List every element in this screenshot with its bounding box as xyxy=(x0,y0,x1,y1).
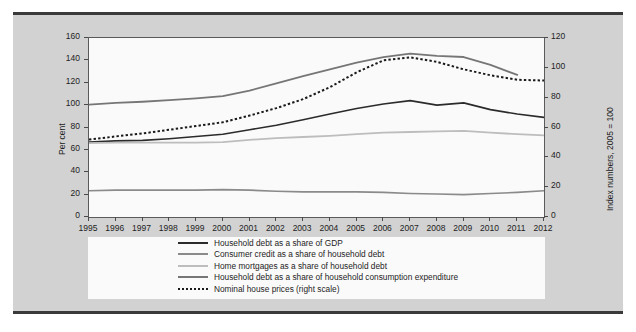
y-tick-label: 20 xyxy=(54,189,80,198)
y-tick-mark xyxy=(84,171,88,172)
x-tick-mark xyxy=(222,217,223,221)
y2-tick-label: 100 xyxy=(551,62,577,71)
figure-frame: Per cent Index numbers, 2005 = 100 02040… xyxy=(13,12,623,314)
legend-item-label: Nominal house prices (right scale) xyxy=(214,284,339,294)
x-tick-mark xyxy=(88,217,89,221)
legend-item[interactable]: Nominal house prices (right scale) xyxy=(88,283,545,295)
x-tick-mark xyxy=(302,217,303,221)
y-tick-label: 40 xyxy=(54,166,80,175)
x-tick-label: 1998 xyxy=(153,223,183,233)
y2-tick-label: 60 xyxy=(551,122,577,131)
x-tick-mark xyxy=(436,217,437,221)
series-line-2 xyxy=(89,131,544,143)
x-tick-label: 2001 xyxy=(234,223,264,233)
plot-area xyxy=(88,37,545,218)
x-tick-label: 2010 xyxy=(474,223,504,233)
x-tick-label: 2012 xyxy=(528,223,558,233)
y-tick-label: 160 xyxy=(54,32,80,41)
y2-tick-mark xyxy=(544,97,548,98)
chart-lines xyxy=(89,38,544,217)
x-tick-mark xyxy=(115,217,116,221)
legend-item[interactable]: Household debt as a share of GDP xyxy=(88,237,545,249)
x-tick-label: 2007 xyxy=(394,223,424,233)
legend-swatch-icon xyxy=(178,272,208,282)
legend-swatch-icon xyxy=(178,249,208,259)
y2-tick-label: 40 xyxy=(551,151,577,160)
y2-tick-mark xyxy=(544,67,548,68)
x-tick-label: 2003 xyxy=(287,223,317,233)
x-tick-label: 2008 xyxy=(421,223,451,233)
y-tick-mark xyxy=(84,104,88,105)
legend-swatch-icon xyxy=(178,238,208,248)
x-tick-label: 1999 xyxy=(180,223,210,233)
y2-tick-label: 0 xyxy=(551,211,577,220)
y2-tick-label: 20 xyxy=(551,181,577,190)
legend-item-label: Consumer credit as a share of household … xyxy=(214,249,384,259)
legend-swatch-icon xyxy=(178,261,208,271)
y-tick-mark xyxy=(84,149,88,150)
y-tick-label: 120 xyxy=(54,77,80,86)
y-tick-mark xyxy=(84,59,88,60)
y2-axis-title: Index numbers, 2005 = 100 xyxy=(605,107,615,211)
x-tick-mark xyxy=(409,217,410,221)
y2-tick-mark xyxy=(544,127,548,128)
legend-item-label: Household debt as a share of GDP xyxy=(214,238,343,248)
x-tick-mark xyxy=(489,217,490,221)
x-tick-mark xyxy=(543,217,544,221)
legend-item[interactable]: Household debt as a share of household c… xyxy=(88,272,545,284)
x-tick-label: 2005 xyxy=(341,223,371,233)
x-tick-mark xyxy=(356,217,357,221)
legend-item-label: Home mortgages as a share of household d… xyxy=(214,261,387,271)
y-tick-label: 80 xyxy=(54,122,80,131)
x-tick-mark xyxy=(382,217,383,221)
x-tick-label: 1996 xyxy=(100,223,130,233)
x-tick-mark xyxy=(168,217,169,221)
x-tick-mark xyxy=(463,217,464,221)
x-tick-label: 2006 xyxy=(367,223,397,233)
y-tick-mark xyxy=(84,194,88,195)
legend-item[interactable]: Home mortgages as a share of household d… xyxy=(88,260,545,272)
y2-tick-label: 80 xyxy=(551,92,577,101)
y2-tick-label: 120 xyxy=(551,32,577,41)
legend-item[interactable]: Consumer credit as a share of household … xyxy=(88,249,545,261)
x-tick-label: 1995 xyxy=(73,223,103,233)
y-tick-label: 60 xyxy=(54,144,80,153)
chart-legend: Household debt as a share of GDPConsumer… xyxy=(88,237,545,299)
series-line-1 xyxy=(89,190,544,195)
x-tick-label: 2009 xyxy=(448,223,478,233)
x-tick-mark xyxy=(249,217,250,221)
x-tick-label: 2002 xyxy=(260,223,290,233)
y2-tick-mark xyxy=(544,37,548,38)
y-tick-label: 140 xyxy=(54,54,80,63)
y2-tick-mark xyxy=(544,186,548,187)
x-tick-label: 2000 xyxy=(207,223,237,233)
y-tick-label: 100 xyxy=(54,99,80,108)
series-line-4 xyxy=(89,57,544,139)
y-tick-mark xyxy=(84,82,88,83)
x-tick-mark xyxy=(516,217,517,221)
y-tick-label: 0 xyxy=(54,211,80,220)
x-tick-mark xyxy=(329,217,330,221)
y2-tick-mark xyxy=(544,216,548,217)
legend-item-label: Household debt as a share of household c… xyxy=(214,272,458,282)
x-tick-label: 2011 xyxy=(501,223,531,233)
x-tick-mark xyxy=(142,217,143,221)
y-tick-mark xyxy=(84,127,88,128)
x-tick-label: 2004 xyxy=(314,223,344,233)
y2-tick-mark xyxy=(544,156,548,157)
x-tick-mark xyxy=(275,217,276,221)
x-tick-mark xyxy=(195,217,196,221)
legend-swatch-icon xyxy=(178,284,208,294)
y-tick-mark xyxy=(84,37,88,38)
series-line-3 xyxy=(89,54,517,105)
x-tick-label: 1997 xyxy=(127,223,157,233)
